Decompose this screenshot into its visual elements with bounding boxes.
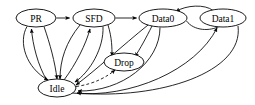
edge-data1-to-data0 xyxy=(176,6,213,11)
node-pr-label: PR xyxy=(30,14,42,24)
node-data1-label: Data1 xyxy=(212,14,235,24)
edge-sfd-to-idle-outer xyxy=(75,27,103,83)
edge-data1-to-idle xyxy=(77,26,238,94)
edge-data0-to-drop xyxy=(135,26,152,57)
node-data1[interactable]: Data1 xyxy=(200,9,246,27)
node-idle-label: Idle xyxy=(50,84,65,94)
node-drop-label: Drop xyxy=(114,58,134,68)
node-data0[interactable]: Data0 xyxy=(139,9,187,27)
node-layer: PR SFD Data0 Data1 Drop Idle xyxy=(16,9,246,97)
state-diagram-svg: PR SFD Data0 Data1 Drop Idle xyxy=(0,0,255,105)
edge-idle-to-pr xyxy=(32,29,48,81)
diagram-canvas: PR SFD Data0 Data1 Drop Idle xyxy=(0,0,255,105)
node-pr[interactable]: PR xyxy=(16,9,56,27)
node-sfd[interactable]: SFD xyxy=(73,9,115,27)
node-idle[interactable]: Idle xyxy=(38,79,76,97)
edge-sfd-to-drop xyxy=(108,25,112,56)
node-drop[interactable]: Drop xyxy=(104,53,144,71)
edge-pr-to-idle-inner xyxy=(44,27,57,80)
edge-drop-to-idle-dashed xyxy=(76,70,115,87)
node-data0-label: Data0 xyxy=(152,14,175,24)
node-sfd-label: SFD xyxy=(85,14,103,24)
